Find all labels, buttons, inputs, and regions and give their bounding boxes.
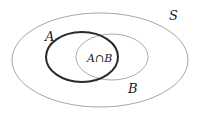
label-b: B: [127, 81, 138, 96]
venn-diagram: S A A∩B B: [0, 0, 200, 113]
label-s: S: [169, 8, 178, 23]
label-a: A: [44, 29, 54, 44]
label-intersection: A∩B: [86, 52, 112, 65]
